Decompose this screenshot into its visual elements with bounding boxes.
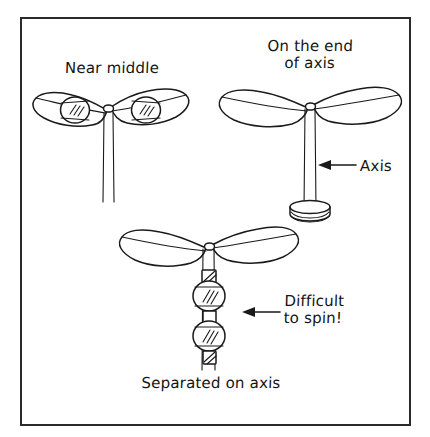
caption-separated-on-axis: Separated on axis <box>120 375 303 392</box>
difficult-line2: to spin! <box>283 309 342 327</box>
annotation-axis-label: Axis <box>360 158 413 175</box>
figure-frame <box>20 17 411 426</box>
caption-on-the-end-of-axis: On the endof axis <box>251 38 368 72</box>
caption-on-the-end-line1: On the end <box>267 37 353 55</box>
caption-on-the-end-line2: of axis <box>284 54 335 72</box>
caption-near-middle: Near middle <box>50 60 175 77</box>
figure-canvas: Near middle On the endof axis Axis Diffi… <box>0 0 430 437</box>
annotation-difficult-to-spin: Difficultto spin! <box>283 293 380 327</box>
difficult-line1: Difficult <box>284 292 345 310</box>
